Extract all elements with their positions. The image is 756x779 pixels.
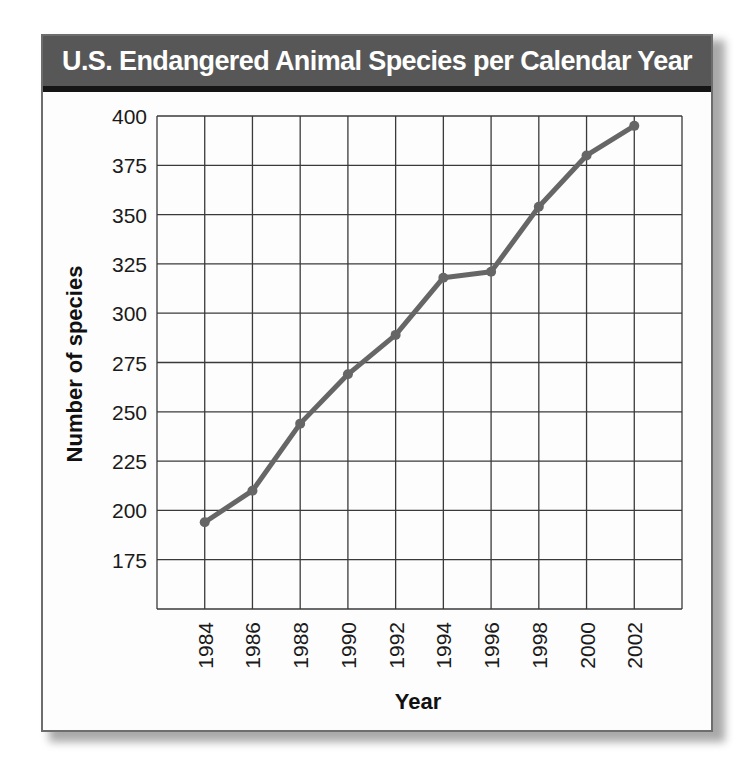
y-tick-label: 325 [112,253,147,276]
x-axis-ticks: 1984198619881990199219941996199820002002 [194,622,647,669]
x-tick-label: 1994 [432,622,455,669]
grid-lines [157,116,682,609]
y-axis-label: Number of species [62,266,87,463]
x-tick-label: 1990 [337,622,360,669]
x-tick-label: 2002 [623,622,646,669]
x-tick-label: 1988 [289,622,312,669]
y-tick-label: 400 [112,105,147,128]
y-tick-label: 175 [112,549,147,572]
line-chart: 175200225250275300325350375400 198419861… [0,0,756,779]
x-tick-label: 1998 [528,622,551,669]
x-tick-label: 2000 [576,622,599,669]
data-point [438,273,448,283]
data-point [247,486,257,496]
data-point [534,202,544,212]
x-tick-label: 1992 [385,622,408,669]
y-tick-label: 250 [112,401,147,424]
data-point [629,121,639,131]
data-point [486,267,496,277]
y-tick-label: 350 [112,204,147,227]
y-tick-label: 375 [112,154,147,177]
y-tick-label: 200 [112,499,147,522]
y-tick-label: 300 [112,302,147,325]
x-tick-label: 1996 [480,622,503,669]
y-tick-label: 225 [112,450,147,473]
y-axis-ticks: 175200225250275300325350375400 [112,105,147,572]
y-tick-label: 275 [112,352,147,375]
x-axis-label: Year [395,689,442,714]
x-tick-label: 1986 [241,622,264,669]
data-point [295,419,305,429]
data-line [205,126,635,522]
data-point [582,150,592,160]
data-point [343,369,353,379]
data-markers [200,121,640,527]
data-point [391,330,401,340]
data-point [200,517,210,527]
x-tick-label: 1984 [194,622,217,669]
